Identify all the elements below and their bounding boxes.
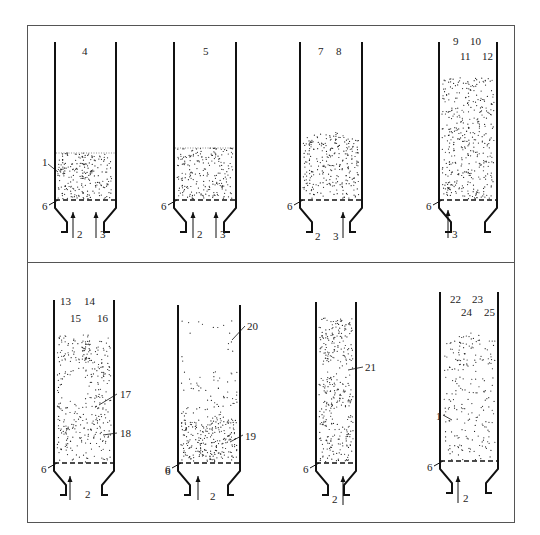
particle [80, 424, 81, 425]
particle [350, 415, 351, 416]
particle [326, 440, 327, 441]
particle [454, 435, 455, 436]
particle [181, 426, 182, 427]
particle [336, 402, 337, 403]
particle [72, 437, 73, 438]
particle [455, 378, 456, 379]
particle [491, 152, 492, 153]
particle [85, 461, 86, 462]
particle [335, 321, 336, 322]
particle [327, 436, 328, 437]
particle [332, 155, 333, 156]
particle [451, 431, 452, 432]
particle [334, 394, 335, 395]
particle [101, 450, 102, 451]
particle [468, 172, 469, 173]
particle [492, 410, 493, 411]
particle [344, 197, 345, 198]
particle [217, 156, 218, 157]
particle [105, 409, 106, 410]
particle [103, 348, 104, 349]
particle [223, 430, 224, 431]
particle [449, 111, 450, 112]
particle [189, 176, 190, 177]
particle [321, 378, 322, 379]
particle [491, 157, 492, 158]
particle [110, 424, 111, 425]
particle [228, 420, 229, 421]
particle [334, 390, 335, 391]
particle [333, 136, 334, 137]
particle [220, 180, 221, 181]
particle [468, 140, 469, 141]
particle [208, 157, 209, 158]
particle [444, 185, 445, 186]
particle [309, 148, 310, 149]
particle [62, 173, 63, 174]
particle [309, 150, 310, 151]
particle [57, 374, 58, 375]
particle [353, 195, 354, 196]
particle [202, 195, 203, 196]
particle [473, 189, 474, 190]
particle [77, 169, 78, 170]
particle [58, 380, 59, 381]
particle [444, 101, 445, 102]
particle [491, 161, 492, 162]
particle [110, 375, 111, 376]
particle [92, 368, 93, 369]
particle [349, 333, 350, 334]
particle [205, 186, 206, 187]
particle [325, 391, 326, 392]
particle [207, 431, 208, 432]
particle [105, 373, 106, 374]
particle [58, 442, 59, 443]
particle [106, 342, 107, 343]
particle [329, 410, 330, 411]
inlet-left [54, 463, 66, 495]
particle [349, 417, 350, 418]
particle [75, 169, 76, 170]
particle [188, 322, 189, 323]
particle [492, 96, 493, 97]
particle [205, 456, 206, 457]
particle [207, 461, 208, 462]
particle [59, 338, 60, 339]
particle [214, 461, 215, 462]
particle [455, 184, 456, 185]
particle [81, 437, 82, 438]
particle [481, 197, 482, 198]
particle [475, 354, 476, 355]
particle [491, 137, 492, 138]
particle [110, 347, 111, 348]
particle [346, 150, 347, 151]
particle [188, 432, 189, 433]
particle [350, 445, 351, 446]
particle [230, 434, 231, 435]
particle [103, 458, 104, 459]
particle [329, 135, 330, 136]
particle [458, 173, 459, 174]
particle [323, 187, 324, 188]
particle [346, 440, 347, 441]
particle [109, 197, 110, 198]
particle [307, 185, 308, 186]
particle [190, 194, 191, 195]
particle [89, 397, 90, 398]
particle [483, 153, 484, 154]
particle [192, 150, 193, 151]
particle [456, 435, 457, 436]
particle [207, 428, 208, 429]
particle [88, 154, 89, 155]
particle [454, 408, 455, 409]
particle [226, 171, 227, 172]
particle [73, 340, 74, 341]
particle [184, 189, 185, 190]
grid-label: 6 [42, 200, 48, 212]
particle [78, 408, 79, 409]
label: 2 [197, 228, 203, 240]
particle [184, 435, 185, 436]
particle [58, 403, 59, 404]
label: 23 [472, 293, 484, 305]
particle [325, 344, 326, 345]
